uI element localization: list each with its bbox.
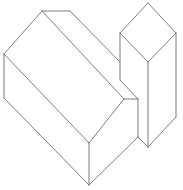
house-prism-shape <box>4 11 138 185</box>
house-prism-edge <box>89 137 138 185</box>
tall-box-shape <box>120 3 176 147</box>
house-prism-edge <box>4 98 89 185</box>
tall-box-edge <box>138 137 148 147</box>
isometric-line-drawing <box>0 0 183 190</box>
house-prism-edge <box>4 11 42 54</box>
house-prism-edge <box>89 99 124 143</box>
tall-box-edge <box>148 3 176 33</box>
tall-box-edge <box>120 80 138 99</box>
tall-box-edge <box>120 3 148 33</box>
house-prism-edge <box>70 11 120 62</box>
house-prism-edge <box>4 54 89 143</box>
tall-box-edge <box>148 117 176 147</box>
tall-box-edge <box>148 33 176 62</box>
tall-box-edge <box>120 33 148 62</box>
